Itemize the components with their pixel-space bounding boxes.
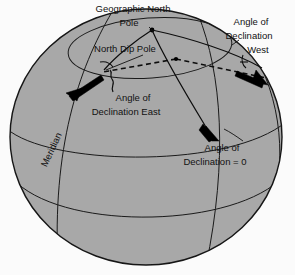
label-declination-east-line2: Declination East bbox=[92, 106, 161, 117]
label-north-dip-pole: North Dip Pole bbox=[94, 43, 156, 54]
north-dip-pole-marker bbox=[174, 57, 178, 61]
globe-diagram-svg: Geographic North Pole North Dip Pole Ang… bbox=[0, 0, 295, 275]
label-declination-zero-line2: Declination = 0 bbox=[183, 156, 246, 167]
label-geographic-north-pole-line1: Geographic North bbox=[96, 3, 171, 14]
declination-globe-figure: Geographic North Pole North Dip Pole Ang… bbox=[0, 0, 295, 275]
label-declination-west-line3: West bbox=[247, 44, 269, 55]
label-declination-west-line2: Declination bbox=[226, 30, 273, 41]
label-declination-zero-line1: Angle of bbox=[205, 142, 240, 153]
label-declination-west-line1: Angle of bbox=[234, 16, 269, 27]
label-geographic-north-pole-line2: Pole bbox=[119, 17, 138, 28]
label-declination-east-line1: Angle of bbox=[116, 92, 151, 103]
